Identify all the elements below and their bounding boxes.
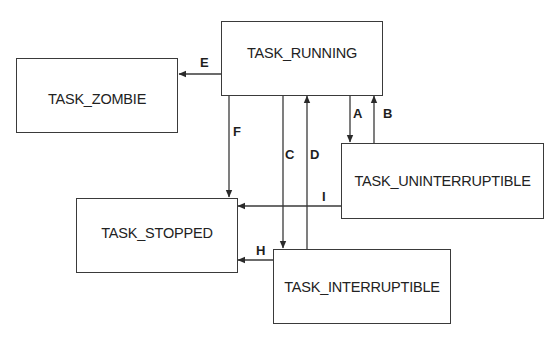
state-label: TASK_ZOMBIE xyxy=(48,91,146,107)
edge-label-f: F xyxy=(233,124,241,139)
state-task-interruptible: TASK_INTERRUPTIBLE xyxy=(273,249,451,324)
state-task-uninterruptible: TASK_UNINTERRUPTIBLE xyxy=(341,143,544,219)
edge-label-a: A xyxy=(353,106,362,121)
edge-label-i: I xyxy=(322,189,326,204)
edge-label-c: C xyxy=(285,147,294,162)
state-task-zombie: TASK_ZOMBIE xyxy=(16,58,178,133)
edge-label-b: B xyxy=(383,106,392,121)
state-task-running: TASK_RUNNING xyxy=(221,21,383,96)
state-label: TASK_UNINTERRUPTIBLE xyxy=(354,173,530,189)
edge-label-e: E xyxy=(200,55,209,70)
state-label: TASK_STOPPED xyxy=(101,225,213,241)
state-label: TASK_RUNNING xyxy=(247,45,357,61)
state-task-stopped: TASK_STOPPED xyxy=(76,198,238,273)
edge-label-h: H xyxy=(256,243,265,258)
state-label: TASK_INTERRUPTIBLE xyxy=(284,279,440,295)
edge-label-d: D xyxy=(310,147,319,162)
